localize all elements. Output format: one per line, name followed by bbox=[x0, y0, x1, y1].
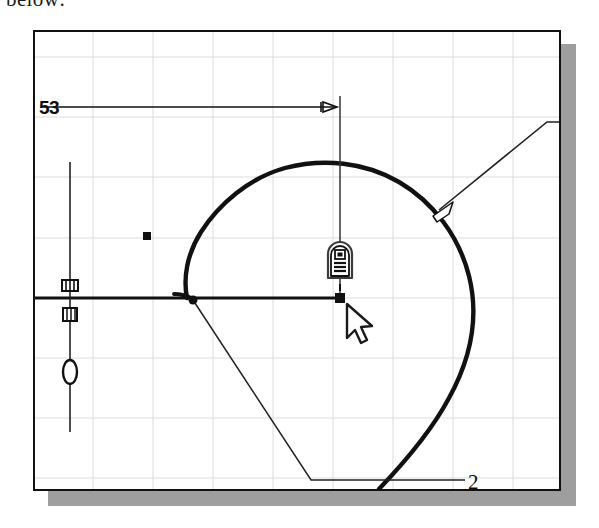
dimension-53-group[interactable] bbox=[43, 96, 340, 298]
cad-sketch-viewport[interactable]: 53 2 bbox=[33, 30, 561, 491]
sketch-svg-layer bbox=[35, 32, 559, 489]
dimension-53-label[interactable]: 53 bbox=[39, 98, 59, 117]
origin-junction-point[interactable] bbox=[189, 296, 198, 305]
grid-lines bbox=[35, 32, 559, 489]
free-sketch-point[interactable] bbox=[143, 232, 151, 240]
page-root: below: bbox=[0, 0, 599, 528]
caption-fragment: below: bbox=[6, 0, 206, 13]
ellipse-marker-icon[interactable] bbox=[63, 360, 77, 384]
callout-leader-group[interactable] bbox=[433, 122, 559, 222]
mouse-pointer-icon bbox=[347, 304, 372, 343]
selected-endpoint[interactable] bbox=[335, 293, 345, 303]
profile-curve[interactable] bbox=[186, 163, 474, 489]
sketch-canvas[interactable]: 53 2 bbox=[35, 32, 559, 489]
leader-2-label[interactable]: 2 bbox=[468, 472, 479, 491]
leader-2-group[interactable] bbox=[193, 300, 465, 480]
leader-2-line bbox=[193, 300, 465, 480]
callout-leader-line bbox=[439, 122, 559, 210]
coincident-marker-icon-lower[interactable] bbox=[63, 308, 77, 321]
coincident-marker-icon-upper[interactable] bbox=[62, 280, 78, 291]
caption-text: below: bbox=[6, 0, 206, 11]
